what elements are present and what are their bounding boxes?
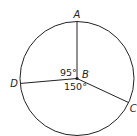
angle-label-dbc: 150° bbox=[64, 81, 87, 92]
point-label-a: A bbox=[73, 9, 81, 20]
center-label-b: B bbox=[82, 69, 89, 80]
point-label-c: C bbox=[130, 103, 137, 114]
point-label-d: D bbox=[10, 78, 18, 89]
angle-label-dba: 95° bbox=[60, 67, 77, 78]
circle-diagram: A C D B 95° 150° bbox=[0, 0, 137, 136]
